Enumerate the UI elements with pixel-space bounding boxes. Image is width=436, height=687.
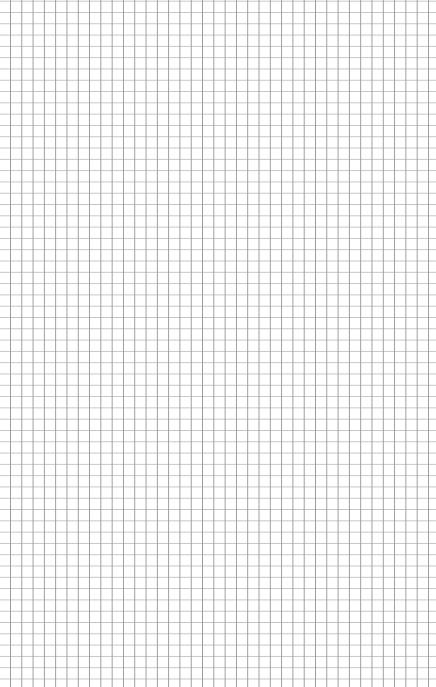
graph-paper-sheet — [0, 0, 436, 687]
